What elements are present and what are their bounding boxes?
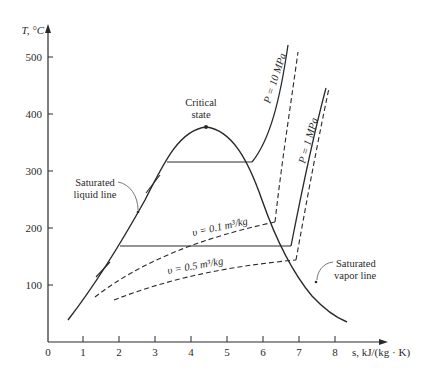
y-ticks — [48, 57, 53, 285]
sat-liquid-label-line2: liquid line — [74, 189, 117, 200]
y-tick-300: 300 — [26, 165, 43, 177]
v-0.1-label: υ = 0.1 m³/kg — [191, 215, 249, 238]
p-10mpa-label: P = 10 MPa — [261, 52, 288, 106]
isochore-0.1 — [95, 222, 275, 297]
liquid-segment-low — [96, 262, 110, 277]
x-tick-8: 8 — [332, 346, 338, 358]
x-tick-5: 5 — [224, 346, 230, 358]
y-tick-200: 200 — [26, 222, 43, 234]
y-tick-400: 400 — [26, 108, 43, 120]
x-axis-arrow-icon — [379, 339, 388, 345]
y-axis-arrow-icon — [45, 24, 51, 33]
y-axis-label: T, °C — [21, 24, 44, 36]
x-tick-4: 4 — [188, 346, 194, 358]
isochore-0.5-upper — [296, 88, 329, 260]
v-0.5-label: υ = 0.5 m³/kg — [166, 255, 224, 276]
x-tick-2: 2 — [116, 346, 122, 358]
sat-vapor-label-line2: vapor line — [334, 270, 377, 281]
critical-state-label-line2: state — [191, 109, 211, 120]
sat-liquid-label-line1: Saturated — [75, 177, 115, 188]
y-tick-100: 100 — [26, 279, 43, 291]
x-tick-0: 0 — [45, 346, 51, 358]
sat-vapor-leader — [317, 262, 333, 280]
x-axis-label: s, kJ/(kg · K) — [352, 346, 410, 359]
critical-point — [204, 125, 208, 129]
x-ticks — [83, 336, 335, 342]
sat-vapor-label-line1: Saturated — [336, 258, 376, 269]
x-tick-7: 7 — [296, 346, 302, 358]
x-tick-1: 1 — [80, 346, 86, 358]
y-tick-500: 500 — [26, 51, 43, 63]
sat-liquid-leader — [118, 182, 138, 210]
x-tick-3: 3 — [152, 346, 158, 358]
sat-liquid-leader-dot — [137, 211, 140, 214]
t-s-diagram: 100 200 300 400 500 T, °C 0 1 2 3 4 5 6 … — [0, 0, 433, 378]
liquid-segment-high — [146, 175, 160, 193]
critical-state-label-line1: Critical — [185, 97, 217, 108]
sat-vapor-leader-dot — [315, 281, 318, 284]
isobar-1mpa — [291, 88, 326, 246]
x-tick-6: 6 — [260, 346, 266, 358]
p-1mpa-label: P = 1 MPa — [296, 116, 320, 165]
